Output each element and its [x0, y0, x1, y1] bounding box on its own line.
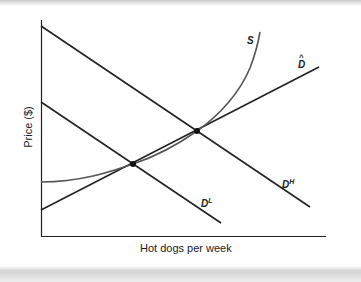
- demand-low-superscript: L: [208, 197, 212, 204]
- demand-hat-curve: [41, 67, 319, 210]
- equilibrium-point-high: [194, 128, 200, 134]
- demand-high-curve: [41, 26, 310, 207]
- supply-label: S: [247, 36, 254, 46]
- demand-high-label: DH: [282, 177, 294, 190]
- bottom-border: [0, 266, 361, 282]
- demand-high-superscript: H: [289, 178, 294, 185]
- equilibrium-point-low: [130, 161, 136, 167]
- supply-label-text: S: [247, 35, 254, 46]
- diagram-canvas: [0, 0, 361, 282]
- x-axis-label: Hot dogs per week: [140, 242, 232, 254]
- supply-curve: [41, 32, 260, 182]
- demand-hat-label: ^ D: [298, 60, 305, 70]
- y-axis-label: Price ($): [22, 106, 34, 148]
- hat-accent: ^: [299, 53, 304, 63]
- demand-low-label: DL: [201, 196, 213, 209]
